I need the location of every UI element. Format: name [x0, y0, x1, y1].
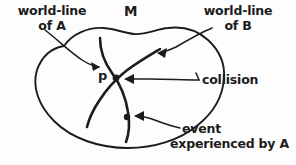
arrowhead-collision — [124, 74, 134, 84]
arrowhead-event — [134, 111, 144, 121]
leader-collision-tick — [196, 73, 199, 80]
worldline-b-path — [87, 49, 160, 127]
event-dot — [124, 114, 130, 120]
label-point-p: p — [98, 68, 107, 83]
point-p-dot — [113, 75, 120, 82]
label-collision: collision — [202, 73, 258, 88]
worldline-a-path — [100, 38, 129, 142]
label-event: event — [182, 122, 221, 137]
label-worldline-b: world-line of B — [188, 4, 288, 34]
leader-collision — [126, 79, 199, 80]
spacetime-manifold-figure: world-line of A world-line of B M p coll… — [0, 0, 296, 165]
label-manifold-m: M — [124, 4, 137, 20]
label-experienced-by-a: experienced by A — [170, 137, 289, 152]
leader-worldline-a — [45, 30, 99, 67]
label-worldline-a: world-line of A — [6, 4, 98, 34]
